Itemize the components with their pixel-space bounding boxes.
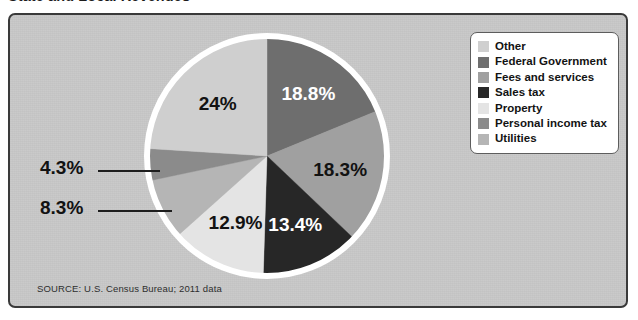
legend-swatch-icon — [478, 134, 489, 145]
legend-item[interactable]: Federal Government — [478, 54, 612, 69]
pie-slice-label: 18.3% — [313, 159, 367, 180]
leader-line-utilities — [98, 210, 172, 212]
legend-item-label: Fees and services — [495, 72, 594, 84]
legend: OtherFederal GovernmentFees and services… — [470, 32, 619, 154]
callout-label-personal-income-tax: 4.3% — [40, 157, 83, 179]
legend-item[interactable]: Fees and services — [478, 70, 612, 85]
legend-item[interactable]: Personal income tax — [478, 116, 612, 131]
legend-item[interactable]: Utilities — [478, 131, 612, 146]
page-title: State and Local Revenues — [8, 0, 190, 4]
chart-frame: 18.8%18.3%13.4%12.9%24% 4.3% 8.3% OtherF… — [8, 13, 628, 308]
legend-item[interactable]: Property — [478, 101, 612, 116]
screenshot-root: State and Local Revenues 18.8%18.3%13.4%… — [0, 0, 638, 320]
legend-item-label: Property — [495, 103, 542, 115]
pie-slice-label: 24% — [199, 93, 237, 114]
legend-item-label: Other — [495, 41, 526, 53]
pie-slice-label: 18.8% — [281, 83, 335, 104]
pie-chart-svg: 18.8%18.3%13.4%12.9%24% — [142, 31, 392, 281]
legend-item-label: Federal Government — [495, 56, 607, 68]
pie-slice-label: 12.9% — [209, 212, 263, 233]
legend-item[interactable]: Sales tax — [478, 85, 612, 100]
legend-item-label: Utilities — [495, 133, 537, 145]
legend-swatch-icon — [478, 72, 489, 83]
legend-swatch-icon — [478, 41, 489, 52]
legend-swatch-icon — [478, 118, 489, 129]
pie-slice-label: 13.4% — [268, 214, 322, 235]
pie-chart: 18.8%18.3%13.4%12.9%24% — [142, 31, 392, 281]
legend-swatch-icon — [478, 87, 489, 98]
leader-line-personal-income-tax — [98, 170, 160, 172]
legend-item-label: Personal income tax — [495, 118, 607, 130]
legend-item-label: Sales tax — [495, 87, 545, 99]
source-note: SOURCE: U.S. Census Bureau; 2011 data — [37, 283, 222, 294]
legend-item[interactable]: Other — [478, 39, 612, 54]
callout-label-utilities: 8.3% — [40, 197, 83, 219]
legend-swatch-icon — [478, 57, 489, 68]
legend-swatch-icon — [478, 103, 489, 114]
